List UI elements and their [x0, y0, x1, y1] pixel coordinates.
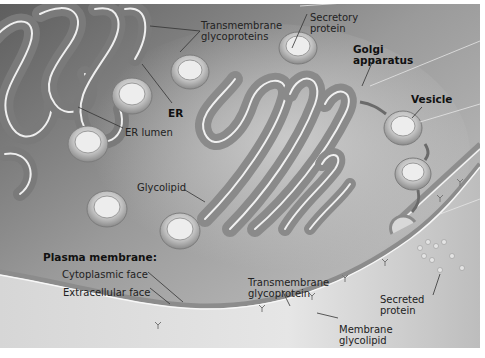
label-secreted-protein: Secreted protein: [380, 294, 424, 316]
label-glycolipid: Glycolipid: [137, 182, 186, 193]
label-cytoplasmic-face: Cytoplasmic face: [62, 269, 148, 280]
label-transmembrane-glycoproteins: Transmembrane glycoproteins: [201, 20, 282, 42]
label-er-lumen: ER lumen: [125, 127, 173, 138]
label-vesicle: Vesicle: [411, 94, 452, 105]
label-plasma-membrane: Plasma membrane:: [43, 252, 157, 263]
label-er: ER: [168, 108, 183, 119]
label-membrane-glycolipid: Membrane glycolipid: [339, 324, 393, 346]
label-extracellular-face: Extracellular face: [63, 287, 150, 298]
endomembrane-illustration: Transmembrane glycoproteins Secretory pr…: [0, 4, 480, 348]
label-transmembrane-glycoprotein: Transmembrane glycoprotein: [248, 277, 329, 299]
label-secretory-protein: Secretory protein: [310, 12, 358, 34]
label-golgi-apparatus: Golgi apparatus: [353, 44, 413, 66]
